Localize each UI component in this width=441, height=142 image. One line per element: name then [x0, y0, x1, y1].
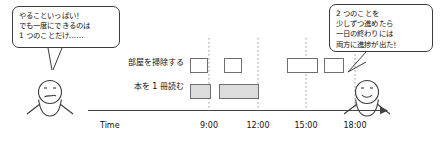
task-block-r1-1	[219, 84, 259, 99]
bubble-right-line-3: 一日の終わりには	[336, 29, 426, 39]
bubble-left-line-3: 1 つのことだけ……	[19, 31, 113, 41]
task-block-r1-0	[190, 84, 211, 99]
task-row-label-clean-room: 部屋を掃除する	[104, 58, 184, 68]
axis-label-time: Time	[100, 121, 120, 131]
axis-tick-18-00: 18:00	[343, 121, 366, 131]
task-block-r0-0	[190, 58, 208, 73]
left-bubble-tail	[48, 48, 62, 70]
task-row-label-read-book: 本を 1 冊読む	[104, 82, 184, 92]
bubble-left-line-1: やることいっぱい！	[19, 11, 113, 21]
speech-bubble-right: 2 つのことを 少しずつ進めたら 一日の終わりには 両方に進捗が出た！	[329, 4, 433, 52]
person-frustrated	[27, 81, 73, 117]
bubble-left-line-2: でも一度にできるのは	[19, 21, 113, 31]
axis-tick-15-00: 15:00	[294, 121, 317, 131]
face-satisfied	[361, 88, 373, 97]
bubble-right-line-4: 両方に進捗が出た！	[336, 40, 426, 50]
axis-tick-9-00: 9:00	[200, 121, 218, 131]
axis-tick-12-00: 12:00	[246, 121, 269, 131]
bubble-right-line-2: 少しずつ進めたら	[336, 19, 426, 29]
right-bubble-tail	[348, 52, 366, 72]
bubble-right-line-1: 2 つのことを	[336, 9, 426, 19]
task-block-r0-1	[224, 58, 242, 73]
speech-bubble-left: やることいっぱい！ でも一度にできるのは 1 つのことだけ……	[12, 6, 120, 48]
time-axis	[88, 107, 388, 114]
task-block-r0-3	[324, 58, 344, 73]
task-block-r0-2	[287, 58, 318, 73]
figure-canvas: やることいっぱい！ でも一度にできるのは 1 つのことだけ…… 2 つのことを …	[0, 0, 441, 142]
face-frustrated	[44, 88, 56, 97]
